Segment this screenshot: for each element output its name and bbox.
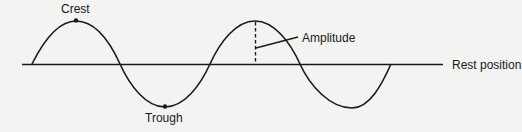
amplitude-pointer (256, 37, 298, 48)
crest-label: Crest (61, 3, 90, 15)
rest-position-label: Rest position (452, 59, 521, 71)
trough-label: Trough (145, 112, 183, 124)
amplitude-label: Amplitude (302, 32, 355, 44)
crest-point (74, 18, 78, 22)
wave-diagram: Crest Trough Amplitude Rest position (0, 0, 522, 132)
trough-point (163, 104, 167, 108)
wave-figure (0, 0, 522, 132)
